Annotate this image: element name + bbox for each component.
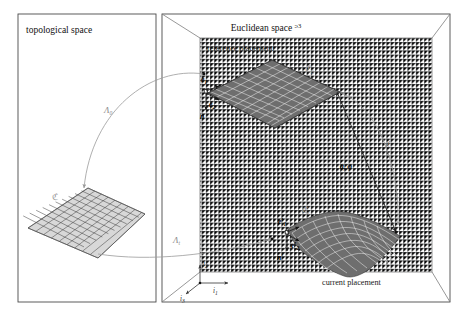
- lambdat-label: Λt: [172, 235, 180, 246]
- current-normal-label: n′: [277, 253, 283, 262]
- a-phi-label: a, φ: [340, 162, 353, 171]
- room-box: [162, 14, 450, 302]
- lambda0-arc: [84, 73, 204, 188]
- reference-surface-sub: 0: [311, 69, 314, 75]
- box-edge-top-right: [432, 14, 450, 38]
- axis-i1-label: i1: [213, 287, 218, 296]
- euclidean-space-title: Euclidean space ᵓ3: [231, 22, 302, 33]
- box-edge-top-left: [162, 14, 200, 38]
- topological-space-frame: [18, 14, 156, 302]
- euclidean-space-panel: Euclidean space ᵓ3 reference placement c…: [162, 14, 450, 304]
- topological-space-title: topological space: [26, 25, 92, 35]
- box-edge-bottom-right: [432, 272, 450, 302]
- axis-i3-label: i3: [180, 295, 185, 304]
- body-manifold-surface: [23, 188, 145, 258]
- body-manifold-label: ℭ: [52, 192, 58, 202]
- axis-i3: [186, 283, 200, 294]
- reference-map-arc: Λ0: [84, 73, 205, 188]
- a-phi-target-dot: [394, 230, 397, 233]
- lambda0-label: Λ0: [103, 105, 112, 116]
- diagram-canvas: topological space: [0, 0, 459, 316]
- figure-root: topological space: [0, 0, 459, 316]
- reference-placement-label: reference placement: [207, 44, 274, 53]
- lambda0-source-dot: [203, 73, 206, 76]
- euclidean-title-text: Euclidean space: [231, 23, 295, 33]
- reference-normal-label: n: [200, 112, 204, 121]
- current-placement-label: current placement: [322, 278, 382, 287]
- euclidean-title-exponent: 3: [298, 22, 302, 29]
- topological-space-panel: topological space: [18, 14, 156, 302]
- axes-origin-dot: [199, 282, 202, 285]
- lambdat-target-dot: [271, 238, 274, 241]
